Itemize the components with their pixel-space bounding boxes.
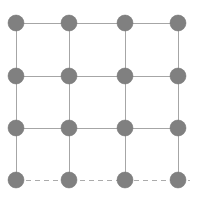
lattice-node-r1-c0 xyxy=(8,68,24,84)
lattice-node-r0-c2 xyxy=(117,15,133,31)
lattice-node-r3-c2 xyxy=(117,172,133,188)
lattice-node-r2-c2 xyxy=(117,120,133,136)
lattice-node-r1-c1 xyxy=(61,68,77,84)
lattice-node-r0-c3 xyxy=(170,15,186,31)
lattice-node-r2-c0 xyxy=(8,120,24,136)
lattice-node-r2-c1 xyxy=(61,120,77,136)
lattice-node-r2-c3 xyxy=(170,120,186,136)
lattice-diagram-canvas xyxy=(0,0,199,204)
lattice-node-r1-c2 xyxy=(117,68,133,84)
lattice-node-r0-c0 xyxy=(8,15,24,31)
lattice-node-r3-c0 xyxy=(8,172,24,188)
lattice-node-r3-c1 xyxy=(61,172,77,188)
lattice-node-r3-c3 xyxy=(170,172,186,188)
lattice-node-r1-c3 xyxy=(170,68,186,84)
lattice-grid-figure xyxy=(0,0,199,204)
figure-background xyxy=(0,0,199,204)
lattice-node-r0-c1 xyxy=(61,15,77,31)
